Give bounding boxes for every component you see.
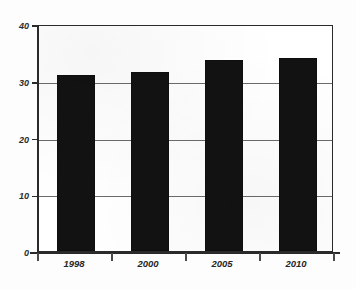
x-tick-mark-1 xyxy=(111,253,113,261)
bar-2000 xyxy=(131,72,169,251)
x-tick-mark-2 xyxy=(185,253,187,261)
x-tick-label-1998: 1998 xyxy=(63,258,84,269)
y-tick-label-40: 40 xyxy=(19,21,29,31)
y-tick-mark-10 xyxy=(32,196,39,198)
y-tick-label-20: 20 xyxy=(19,135,29,145)
x-tick-mark-0 xyxy=(37,253,39,261)
bar-2005 xyxy=(205,60,243,251)
x-tick-label-2010: 2010 xyxy=(285,258,306,269)
y-tick-mark-30 xyxy=(32,82,39,84)
y-tick-mark-20 xyxy=(32,139,39,141)
y-tick-mark-40 xyxy=(32,25,39,27)
x-tick-mark-3 xyxy=(259,253,261,261)
bar-2010 xyxy=(279,58,317,251)
x-tick-mark-4 xyxy=(333,253,335,261)
x-tick-label-2000: 2000 xyxy=(137,258,158,269)
y-tick-label-0: 0 xyxy=(24,248,29,258)
y-tick-label-10: 10 xyxy=(19,191,29,201)
x-tick-label-2005: 2005 xyxy=(211,258,232,269)
bar-1998 xyxy=(57,75,95,251)
bar-chart: 010203040 1998200020052010 xyxy=(0,0,356,289)
y-tick-label-30: 30 xyxy=(19,78,29,88)
plot-area: 010203040 xyxy=(37,25,333,252)
